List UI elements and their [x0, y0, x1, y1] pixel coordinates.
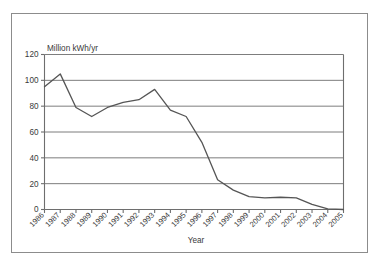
x-axis-title: Year	[188, 236, 205, 245]
y-axis-tick-labels: 020406080100120	[25, 50, 39, 214]
x-tick-label: 1987	[43, 211, 61, 229]
x-tick-label: 1996	[185, 211, 203, 229]
x-tick-label: 1997	[201, 211, 219, 229]
x-tick-label: 1993	[138, 211, 156, 229]
y-tick-label: 120	[25, 50, 39, 59]
y-tick-label: 20	[29, 180, 39, 189]
x-tick-label: 2001	[264, 211, 282, 229]
x-tick-label: 2005	[327, 211, 345, 229]
x-tick-label: 2000	[248, 211, 266, 229]
line-chart: 020406080100120 198619871988198919901991…	[0, 0, 380, 266]
y-tick-label: 40	[29, 154, 39, 163]
x-tick-label: 1995	[169, 211, 187, 229]
x-tick-label: 1988	[59, 211, 77, 229]
data-series-line	[45, 74, 344, 210]
x-tick-label: 1991	[106, 211, 124, 229]
x-tick-label: 1992	[122, 211, 140, 229]
x-tick-label: 1990	[91, 211, 109, 229]
y-axis-title: Million kWh/yr	[47, 44, 98, 53]
y-tick-label: 100	[25, 76, 39, 85]
x-axis-tick-labels: 1986198719881989199019911992199319941995…	[28, 211, 345, 229]
x-tick-label: 1998	[216, 211, 234, 229]
x-tick-label: 2002	[279, 211, 297, 229]
x-tick-label: 2003	[295, 211, 313, 229]
gridlines	[45, 55, 344, 210]
x-tick-label: 1994	[153, 211, 171, 229]
x-tick-label: 1989	[75, 211, 93, 229]
x-tick-label: 2004	[311, 211, 329, 229]
y-tick-label: 60	[29, 128, 39, 137]
x-tick-label: 1986	[28, 211, 46, 229]
series-line	[45, 74, 344, 210]
y-tick-label: 80	[29, 102, 39, 111]
x-tick-label: 1999	[232, 211, 250, 229]
